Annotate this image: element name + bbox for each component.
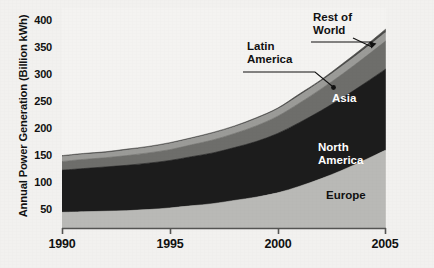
series-label-north-america-line1: North — [318, 141, 363, 154]
callout-label-rest-of-world-line2: World — [313, 24, 352, 37]
series-label-europe: Europe — [326, 189, 366, 202]
stacked-area-chart-figure: Annual Power Generation (Billion kWh) 40… — [0, 0, 434, 268]
series-label-north-america: North America — [318, 141, 363, 166]
callout-label-rest-of-world-line1: Rest of — [313, 11, 352, 24]
callout-label-latin-america: Latin America — [247, 40, 292, 65]
series-label-asia: Asia — [332, 92, 356, 105]
series-label-north-america-line2: America — [318, 154, 363, 167]
callout-label-latin-america-line1: Latin — [247, 40, 292, 53]
callout-label-latin-america-line2: America — [247, 53, 292, 66]
callout-label-rest-of-world: Rest of World — [313, 11, 352, 36]
plot-area — [0, 0, 434, 268]
